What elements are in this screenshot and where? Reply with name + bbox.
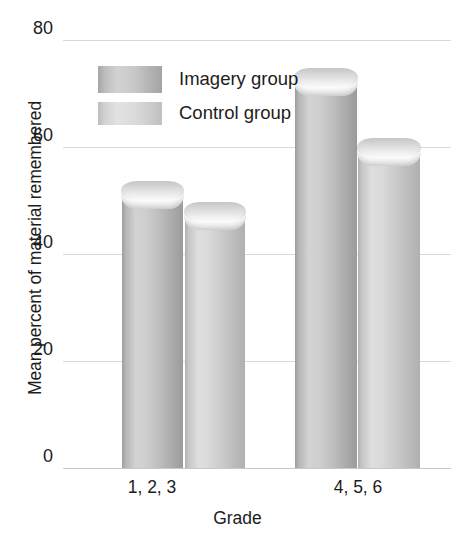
legend-label-imagery-group: Imagery group [179,68,298,90]
legend-swatch-icon [98,102,162,125]
x-tick-label-grade-123: 1, 2, 3 [92,477,212,498]
legend-label-control-group: Control group [179,102,291,124]
bar-control-grade-123[interactable] [185,211,245,468]
legend-item-imagery-group[interactable]: Imagery group [98,62,298,96]
x-axis-title: Grade [0,508,475,529]
bar-chart-figure: Mean percent of material remembered 80 6… [0,0,475,539]
bar-imagery-grade-456[interactable] [295,77,357,468]
bar-control-grade-456[interactable] [358,147,420,468]
bar-cap-top [121,181,184,209]
y-tick-label-80: 80 [33,19,53,40]
bar-cap-shading [357,138,421,157]
bar-cap-shading [121,181,184,200]
legend-swatch-icon [98,66,162,93]
gridline-80: 80 [63,40,451,41]
bar-cap-shading [184,202,246,221]
bar-cap-top [294,68,358,96]
y-tick-label-0: 0 [43,447,53,468]
bar-cap-top [184,202,246,230]
bar-cap-shading [294,68,358,87]
y-tick-label-60: 60 [33,126,53,147]
y-tick-label-40: 40 [33,233,53,254]
gridline-0-baseline: 0 [63,468,451,469]
bar-imagery-grade-123[interactable] [122,190,183,468]
chart-legend: Imagery group Control group [98,62,298,130]
bar-cap-top [357,138,421,166]
x-tick-label-grade-456: 4, 5, 6 [298,477,418,498]
y-tick-label-20: 20 [33,340,53,361]
legend-item-control-group[interactable]: Control group [98,96,298,130]
